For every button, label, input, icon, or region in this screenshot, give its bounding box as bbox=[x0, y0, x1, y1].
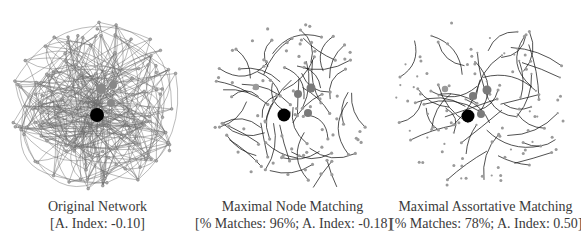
panel-assortative-matching: Maximal Assortative Matching [% Matches:… bbox=[390, 0, 581, 237]
network-graph-node-matching bbox=[195, 0, 390, 195]
network-graph-assortative-matching bbox=[390, 0, 581, 195]
network-graph-original bbox=[0, 0, 195, 195]
panel-node-matching: Maximal Node Matching [% Matches: 96%; A… bbox=[195, 0, 390, 237]
caption-title: Maximal Assortative Matching bbox=[390, 198, 581, 215]
panel-original-network: Original Network [A. Index: -0.10] bbox=[0, 0, 195, 237]
caption-title: Maximal Node Matching bbox=[195, 198, 390, 215]
caption-stats: [A. Index: -0.10] bbox=[0, 215, 195, 232]
caption-stats: [% Matches: 96%; A. Index: -0.18] bbox=[195, 215, 390, 232]
caption-assortative-matching: Maximal Assortative Matching [% Matches:… bbox=[390, 198, 581, 232]
caption-node-matching: Maximal Node Matching [% Matches: 96%; A… bbox=[195, 198, 390, 232]
caption-original: Original Network [A. Index: -0.10] bbox=[0, 198, 195, 232]
caption-title: Original Network bbox=[0, 198, 195, 215]
caption-stats: [% Matches: 78%; A. Index: 0.50] bbox=[390, 215, 581, 232]
